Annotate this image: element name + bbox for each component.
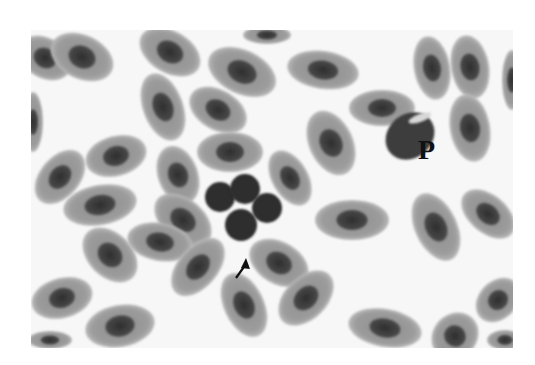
cluster-cell xyxy=(225,209,257,241)
cluster-cell xyxy=(252,193,282,223)
erythrocyte xyxy=(409,33,456,102)
cells-layer xyxy=(31,30,513,348)
erythrocyte xyxy=(285,46,362,94)
nucleus xyxy=(41,336,59,345)
erythrocyte xyxy=(31,331,72,348)
erythrocyte xyxy=(487,330,513,348)
erythrocyte xyxy=(446,32,495,102)
erythrocytes xyxy=(31,30,513,348)
erythrocyte xyxy=(502,50,513,110)
erythrocyte xyxy=(31,271,97,326)
erythrocyte xyxy=(345,303,424,348)
erythrocyte xyxy=(197,132,263,172)
dark-cell-cluster xyxy=(205,174,282,241)
erythrocyte xyxy=(243,30,291,44)
erythrocyte xyxy=(402,185,470,268)
nucleus xyxy=(216,142,244,162)
erythrocyte xyxy=(452,180,513,249)
erythrocyte xyxy=(31,92,43,152)
micrograph-image xyxy=(31,30,513,348)
erythrocyte xyxy=(131,30,209,87)
nucleus xyxy=(368,99,396,117)
arrow-icon xyxy=(236,258,250,278)
erythrocyte xyxy=(43,30,121,91)
erythrocyte xyxy=(81,129,151,184)
erythrocyte xyxy=(444,91,495,165)
erythrocyte xyxy=(315,200,389,240)
label-p: P xyxy=(418,134,435,166)
nucleus xyxy=(257,31,277,40)
nucleus xyxy=(497,335,512,345)
erythrocyte xyxy=(82,299,158,348)
erythrocyte xyxy=(132,67,194,146)
blood-smear-figure: P xyxy=(0,0,535,365)
nucleus xyxy=(336,210,367,230)
